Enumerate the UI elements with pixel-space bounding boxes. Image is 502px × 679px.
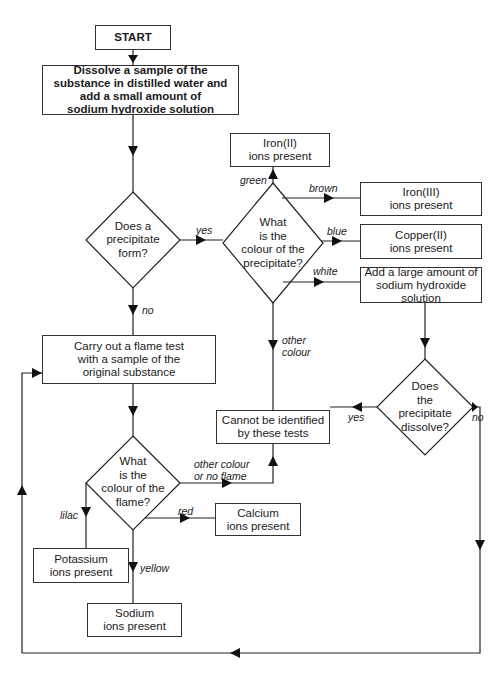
decision-flame-colour: What is the colour of the flame? bbox=[86, 442, 180, 522]
add-naoh-step: Add a large amount of sodium hydroxide s… bbox=[360, 267, 482, 303]
label-no-precipitate: no bbox=[142, 304, 154, 316]
result-copper-ii: Copper(II) ions present bbox=[360, 224, 482, 259]
label-other-colour: other colour bbox=[282, 334, 311, 358]
result-potassium: Potassium ions present bbox=[33, 548, 129, 583]
result-iron-ii: Iron(II) ions present bbox=[230, 133, 330, 167]
flame-test-step: Carry out a flame test with a sample of … bbox=[42, 335, 216, 384]
result-calcium: Calcium ions present bbox=[215, 503, 301, 536]
decision-precipitate-forms: Does a precipitate form? bbox=[86, 200, 180, 280]
result-sodium: Sodium ions present bbox=[87, 603, 182, 637]
label-red: red bbox=[178, 505, 193, 517]
dissolve-step: Dissolve a sample of the substance in di… bbox=[42, 65, 239, 115]
start-node: START bbox=[95, 25, 171, 50]
label-yes-precipitate: yes bbox=[196, 224, 212, 236]
label-lilac: lilac bbox=[60, 509, 78, 521]
label-yes-dissolve: yes bbox=[348, 411, 364, 423]
label-white: white bbox=[313, 265, 338, 277]
label-other-colour-no-flame: other colour or no flame bbox=[194, 458, 249, 482]
decision-precipitate-colour: What is the colour of the precipitate? bbox=[223, 200, 323, 286]
label-brown: brown bbox=[309, 182, 338, 194]
label-no-dissolve: no bbox=[472, 411, 484, 423]
label-yellow: yellow bbox=[140, 562, 169, 574]
label-green: green bbox=[240, 174, 267, 186]
result-iron-iii: Iron(III) ions present bbox=[360, 182, 482, 216]
label-blue: blue bbox=[327, 225, 347, 237]
decision-precipitate-dissolves: Does the precipitate dissolve? bbox=[377, 370, 473, 444]
result-cannot-identify: Cannot be identified by these tests bbox=[216, 410, 330, 444]
